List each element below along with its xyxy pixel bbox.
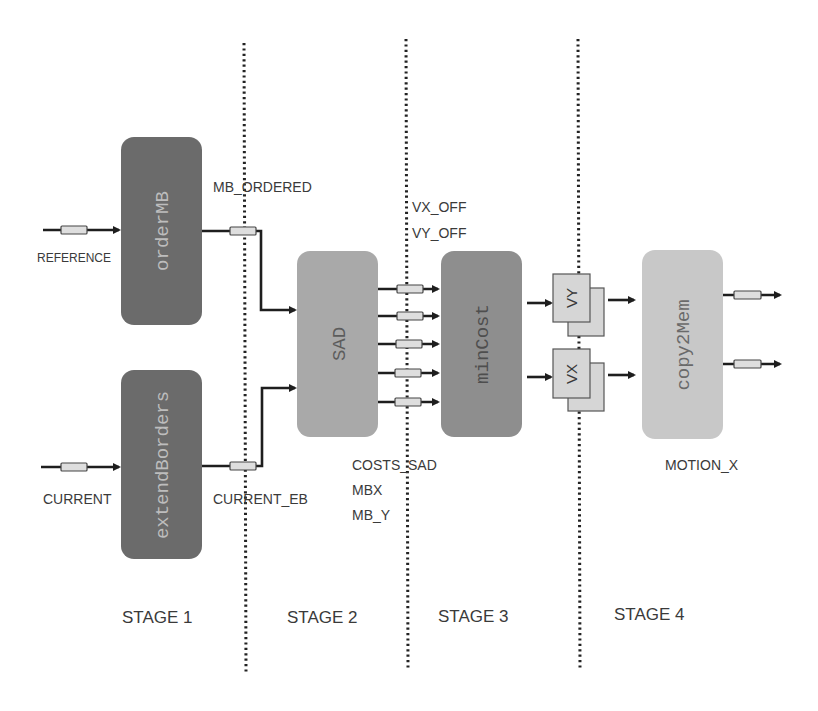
block-mincost: minCost — [441, 251, 522, 437]
stage-1-label: STAGE 1 — [122, 608, 193, 627]
vx-off-label: VX_OFF — [412, 199, 466, 215]
buffer-icon — [397, 312, 423, 320]
current-eb-label: CURRENT_EB — [213, 491, 308, 507]
sad-to-mincost-channels — [378, 285, 438, 406]
buffer-icon — [734, 291, 761, 299]
buffer-icon — [395, 398, 421, 406]
block-ordermb: orderMB — [121, 137, 202, 325]
block-extendborders: extendBorders — [121, 370, 202, 559]
pipeline-diagram: REFERENCE orderMB CURRENT extendBorders … — [0, 0, 818, 711]
vy-off-label: VY_OFF — [412, 225, 466, 241]
mbx-label: MBX — [352, 482, 383, 498]
current-label: CURRENT — [43, 491, 112, 507]
buffer-icon — [396, 340, 422, 348]
buffer-icon — [61, 463, 87, 471]
buffer-icon — [61, 226, 87, 234]
stage-3-label: STAGE 3 — [438, 607, 509, 626]
vx-label: VX — [563, 364, 580, 384]
block-copy2mem: copy2Mem — [642, 250, 723, 439]
copy2mem-label: copy2Mem — [673, 299, 695, 390]
ordermb-label: orderMB — [152, 191, 174, 271]
vy-label: VY — [563, 288, 580, 308]
mb-ordered-connection: MB_ORDERED — [202, 179, 312, 310]
copy2mem-outputs — [723, 291, 780, 368]
buffer-icon — [734, 360, 761, 368]
mb-ordered-label: MB_ORDERED — [213, 179, 312, 195]
current-input: CURRENT — [41, 463, 119, 507]
current-eb-connection: CURRENT_EB — [202, 388, 308, 507]
stage-divider-1 — [244, 43, 246, 672]
stage-4-label: STAGE 4 — [614, 605, 685, 624]
stage-divider-2 — [406, 39, 408, 668]
reference-label: REFERENCE — [37, 251, 111, 265]
register-vy: VY — [553, 274, 604, 336]
buffer-icon — [397, 285, 423, 293]
mb-y-label: MB_Y — [352, 507, 391, 523]
buffer-icon — [230, 462, 256, 470]
block-sad: SAD — [297, 251, 378, 437]
mincost-label: minCost — [472, 304, 494, 384]
stage-2-label: STAGE 2 — [287, 608, 358, 627]
motion-x-label: MOTION_X — [665, 457, 739, 473]
buffer-icon — [395, 369, 421, 377]
costs-sad-label: COSTS_SAD — [352, 457, 437, 473]
reference-input: REFERENCE — [37, 226, 119, 265]
extendborders-label: extendBorders — [152, 391, 174, 539]
buffer-icon — [230, 227, 256, 235]
register-vx: VX — [553, 349, 604, 411]
sad-label: SAD — [329, 327, 351, 361]
